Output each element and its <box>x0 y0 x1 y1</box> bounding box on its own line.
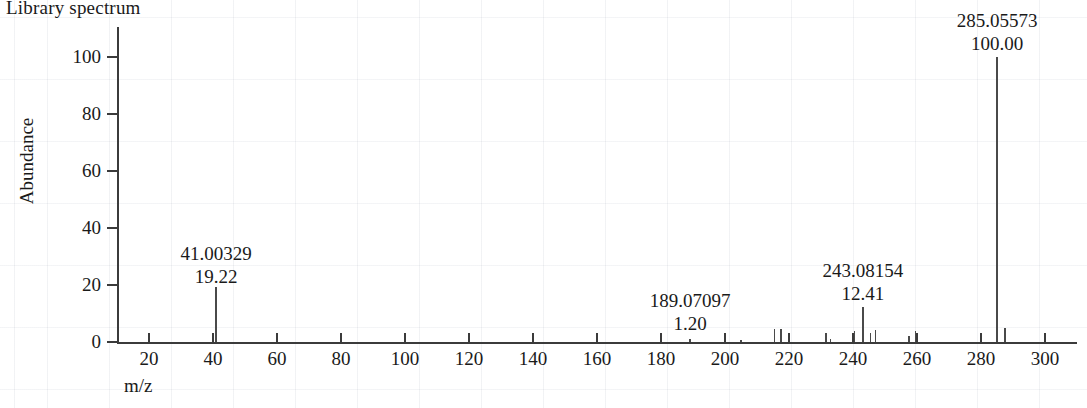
x-tick-label-120: 120 <box>439 349 499 369</box>
x-tick-label-220: 220 <box>759 349 819 369</box>
peak-abundance-value: 12.41 <box>763 282 963 305</box>
peak-abundance-value: 100.00 <box>897 32 1087 55</box>
peak-bar <box>915 331 917 342</box>
spectrum-figure: Library spectrum Abundance m/z 020406080… <box>0 0 1087 408</box>
peak-abundance-value: 1.20 <box>590 312 790 335</box>
peak-mz-value: 243.08154 <box>763 259 963 282</box>
peak-bar <box>825 333 827 342</box>
peak-mz-value: 41.00329 <box>116 242 316 265</box>
peak-bar <box>870 333 872 342</box>
x-tick-label-200: 200 <box>695 349 755 369</box>
x-tick-label-180: 180 <box>631 349 691 369</box>
peak-mz-value: 285.05573 <box>897 9 1087 32</box>
peak-bar <box>830 339 832 342</box>
x-tick-label-240: 240 <box>823 349 883 369</box>
peak-abundance-value: 19.22 <box>116 265 316 288</box>
x-tick-label-260: 260 <box>887 349 947 369</box>
peak-mz-value: 189.07097 <box>590 289 790 312</box>
plot-area: Abundance m/z 020406080100 2040608010012… <box>0 0 1087 408</box>
x-tick-label-60: 60 <box>247 349 307 369</box>
peak-label-189.07097: 189.070971.20 <box>590 289 790 335</box>
peak-label-285.05573: 285.05573100.00 <box>897 9 1087 55</box>
peak-bar <box>854 331 856 342</box>
x-tick-label-100: 100 <box>375 349 435 369</box>
x-tick-label-160: 160 <box>567 349 627 369</box>
x-tick-label-140: 140 <box>503 349 563 369</box>
x-tick-label-20: 20 <box>119 349 179 369</box>
peak-label-243.08154: 243.0815412.41 <box>763 259 963 305</box>
peak-bar <box>862 307 864 342</box>
peak-bar <box>996 57 998 342</box>
peak-bar <box>1004 328 1006 342</box>
x-tick-label-80: 80 <box>311 349 371 369</box>
x-tick-label-280: 280 <box>951 349 1011 369</box>
x-tick-label-40: 40 <box>183 349 243 369</box>
peak-bar <box>908 336 910 342</box>
x-tick-label-300: 300 <box>1015 349 1075 369</box>
peak-label-41.00329: 41.0032919.22 <box>116 242 316 288</box>
peak-bar <box>740 340 742 342</box>
peak-bar <box>875 330 877 342</box>
peak-bar <box>689 339 691 342</box>
x-axis-label: m/z <box>124 375 153 397</box>
peak-bar <box>215 287 217 342</box>
